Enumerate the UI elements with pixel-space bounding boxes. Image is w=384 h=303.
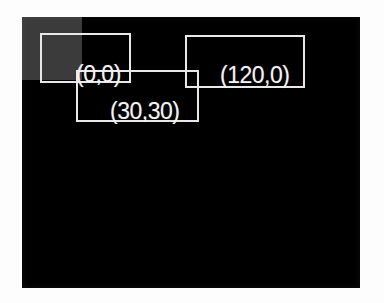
coord-label-inner: (30,30) [110,100,179,123]
coord-label-right: (120,0) [220,64,289,87]
coord-label-origin: (0,0) [76,63,121,86]
image-canvas: (0,0) (120,0) (30,30) [22,17,360,288]
page-root: (0,0) (120,0) (30,30) [0,0,384,303]
